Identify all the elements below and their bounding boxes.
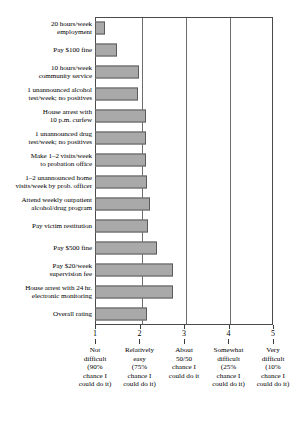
bar bbox=[95, 154, 146, 167]
bar-row: House arrest with 10 p.m. curfew bbox=[0, 105, 305, 127]
bar-category-label: Pay $20/week supervision fee bbox=[0, 262, 92, 279]
bar-category-label: Pay $100 fine bbox=[0, 46, 92, 54]
bar-category-label: Pay victim restitution bbox=[0, 222, 92, 230]
x-axis: 1Not difficult (90% chance I could do it… bbox=[0, 325, 305, 422]
bar-chart: 20 hours/week employmentPay $100 fine10 … bbox=[0, 0, 305, 422]
bar bbox=[95, 110, 146, 123]
bar bbox=[95, 176, 147, 189]
bar-row: 20 hours/week employment bbox=[0, 17, 305, 39]
bar bbox=[95, 198, 150, 211]
bar bbox=[95, 308, 147, 321]
bar-row: 1 unannounced alcohol test/week; no posi… bbox=[0, 83, 305, 105]
axis-tick-connector bbox=[184, 339, 185, 344]
bar-row: Pay victim restitution bbox=[0, 215, 305, 237]
bar-category-label: Overall rating bbox=[0, 310, 92, 318]
bar-category-label: Attend weekly outpatient alcohol/drug pr… bbox=[0, 196, 92, 213]
axis-tick-description: Very difficult (10% chance I could do it… bbox=[244, 346, 302, 389]
bar-category-label: Make 1–2 visits/week to probation office bbox=[0, 152, 92, 169]
bar-category-label: 20 hours/week employment bbox=[0, 20, 92, 37]
axis-tick-connector bbox=[139, 339, 140, 344]
bar-row: Overall rating bbox=[0, 303, 305, 325]
bar-category-label: 1–2 unannounced home visits/week by prob… bbox=[0, 174, 92, 191]
bar bbox=[95, 66, 139, 79]
bar-category-label: 1 unannounced alcohol test/week; no posi… bbox=[0, 86, 92, 103]
bar-row: Pay $500 fine bbox=[0, 237, 305, 259]
bar-row: Pay $100 fine bbox=[0, 39, 305, 61]
bar-rows: 20 hours/week employmentPay $100 fine10 … bbox=[0, 17, 305, 325]
bar bbox=[95, 286, 173, 299]
bar bbox=[95, 22, 105, 35]
bar bbox=[95, 242, 157, 255]
bar-row: 1 unannounced drug test/week; no positiv… bbox=[0, 127, 305, 149]
bar-category-label: House arrest with 10 p.m. curfew bbox=[0, 108, 92, 125]
bar-row: Attend weekly outpatient alcohol/drug pr… bbox=[0, 193, 305, 215]
axis-tick-label: 5 bbox=[244, 329, 302, 338]
axis-tick-connector bbox=[95, 339, 96, 344]
axis-tick-connector bbox=[273, 339, 274, 344]
bar-row: 1–2 unannounced home visits/week by prob… bbox=[0, 171, 305, 193]
bar-category-label: 10 hours/week community service bbox=[0, 64, 92, 81]
bar-row: 10 hours/week community service bbox=[0, 61, 305, 83]
bar bbox=[95, 44, 117, 57]
bar bbox=[95, 264, 173, 277]
bar-row: Make 1–2 visits/week to probation office bbox=[0, 149, 305, 171]
bar-category-label: House arrest with 24 hr. electronic moni… bbox=[0, 284, 92, 301]
bar bbox=[95, 88, 138, 101]
bar-row: House arrest with 24 hr. electronic moni… bbox=[0, 281, 305, 303]
bar-category-label: 1 unannounced drug test/week; no positiv… bbox=[0, 130, 92, 147]
axis-tick-group: 5Very difficult (10% chance I could do i… bbox=[244, 329, 302, 389]
axis-tick-connector bbox=[228, 339, 229, 344]
bar bbox=[95, 132, 146, 145]
bar-row: Pay $20/week supervision fee bbox=[0, 259, 305, 281]
bar-category-label: Pay $500 fine bbox=[0, 244, 92, 252]
bar bbox=[95, 220, 148, 233]
